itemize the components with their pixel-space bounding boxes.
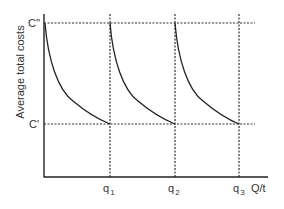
step-cost-chart: Average total costs C'' C' q1 q2 q3 Q/t xyxy=(0,0,284,209)
c-high-label: C'' xyxy=(28,17,40,29)
y-axis-label: Average total costs xyxy=(14,25,26,119)
atc-curve-1 xyxy=(45,23,110,124)
q3-label: q3 xyxy=(233,182,245,197)
atc-curve-3 xyxy=(175,23,239,124)
q1-label: q1 xyxy=(103,182,115,197)
x-axis-label: Q/t xyxy=(251,182,266,194)
c-low-label: C' xyxy=(29,118,39,130)
q2-label: q2 xyxy=(168,182,180,197)
atc-curve-2 xyxy=(110,23,175,124)
